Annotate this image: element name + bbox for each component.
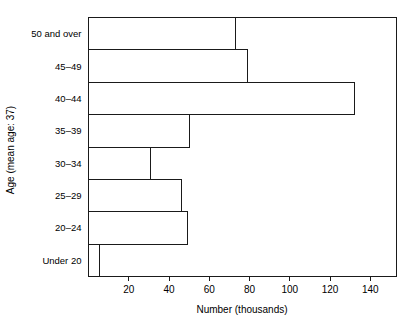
bar: [89, 50, 248, 82]
x-axis-ticks: 20406080100120140: [123, 277, 379, 295]
bar-chart-figure: 20406080100120140 Under 2020–2425–2930–3…: [0, 0, 416, 330]
bar: [89, 115, 190, 147]
category-label: Under 20: [42, 255, 81, 266]
category-label: 30–34: [55, 158, 81, 169]
x-tick-label: 100: [281, 284, 298, 295]
y-axis-category-labels: Under 2020–2425–2930–3435–3940–4445–4950…: [31, 28, 81, 266]
category-label: 25–29: [55, 190, 81, 201]
bar: [89, 179, 182, 211]
x-tick-label: 20: [123, 284, 135, 295]
bar: [89, 212, 188, 244]
category-label: 40–44: [55, 93, 81, 104]
bar: [89, 82, 355, 114]
x-tick-label: 80: [244, 284, 256, 295]
x-tick-label: 40: [163, 284, 175, 295]
chart-canvas: 20406080100120140 Under 2020–2425–2930–3…: [0, 0, 416, 330]
bar: [89, 244, 100, 276]
bar: [89, 18, 236, 50]
bars-group: [89, 18, 355, 277]
bar: [89, 147, 151, 179]
y-axis-title: Age (mean age: 37): [5, 106, 16, 194]
category-label: 35–39: [55, 125, 81, 136]
x-tick-label: 60: [204, 284, 216, 295]
category-label: 50 and over: [31, 28, 81, 39]
x-tick-label: 120: [322, 284, 339, 295]
x-tick-label: 140: [362, 284, 379, 295]
x-axis-title: Number (thousands): [196, 304, 287, 315]
category-label: 45–49: [55, 61, 81, 72]
category-label: 20–24: [55, 222, 81, 233]
